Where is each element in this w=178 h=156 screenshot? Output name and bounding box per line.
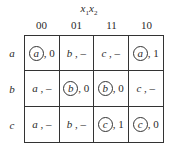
column-header-11: 11: [94, 19, 129, 31]
stable-state-circle: b: [63, 81, 78, 96]
column-header-01: 01: [59, 19, 94, 31]
output-value: , –: [38, 118, 52, 130]
cell-b-10: c , –: [129, 71, 164, 106]
cell-c-11: c, 1: [94, 107, 129, 142]
output-value: , 0: [44, 47, 55, 59]
cell-a-00: a, 0: [25, 36, 60, 71]
cell-c-00: a , –: [25, 107, 60, 142]
output-value: , 0: [78, 82, 89, 94]
column-header-00: 00: [24, 19, 59, 31]
row-header-a: a: [6, 47, 18, 59]
cell-b-00: a , –: [25, 71, 60, 106]
row-header-b: b: [6, 83, 18, 95]
cell-a-10: a, 1: [129, 36, 164, 71]
output-value: , –: [38, 82, 52, 94]
cell-b-01: b, 0: [60, 71, 95, 106]
flow-table-grid: a, 0 b , – c , – a, 1 a , – b, 0 b, 0 c …: [24, 35, 164, 143]
row-header-c: c: [6, 119, 18, 131]
output-value: , 1: [148, 47, 159, 59]
output-value: , –: [141, 82, 155, 94]
output-value: , –: [72, 47, 86, 59]
cell-b-11: b, 0: [94, 71, 129, 106]
stable-state-circle: c: [133, 117, 148, 132]
stable-state-circle: c: [98, 117, 113, 132]
cell-a-01: b , –: [60, 36, 95, 71]
stable-state-circle: a: [133, 46, 148, 61]
output-value: , 0: [148, 118, 159, 130]
input-variables-label: x1x2: [0, 2, 178, 17]
stable-state-circle: b: [98, 81, 113, 96]
output-value: , 0: [113, 82, 124, 94]
stable-state-circle: a: [29, 46, 44, 61]
column-header-10: 10: [129, 19, 164, 31]
output-value: , 1: [113, 118, 124, 130]
output-value: , –: [106, 47, 120, 59]
cell-c-10: c, 0: [129, 107, 164, 142]
cell-a-11: c , –: [94, 36, 129, 71]
output-value: , –: [72, 118, 86, 130]
cell-c-01: b , –: [60, 107, 95, 142]
